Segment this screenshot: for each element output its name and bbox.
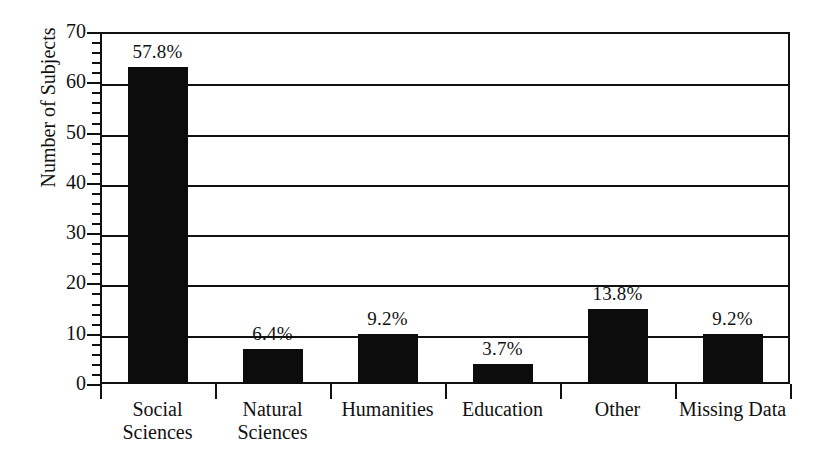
y-tick-minor (92, 92, 100, 94)
y-tick-minor (92, 324, 100, 326)
y-tick-minor (92, 243, 100, 245)
y-tick-major (87, 384, 101, 386)
bar-value-label: 57.8% (88, 41, 228, 63)
y-tick-minor (92, 354, 100, 356)
y-tick-major (87, 233, 101, 235)
y-tick-minor (92, 112, 100, 114)
x-axis-category-label: Missing Data (653, 398, 813, 421)
bar-value-label: 9.2% (663, 308, 803, 330)
y-tick-label: 30 (8, 222, 86, 242)
x-tick (215, 384, 217, 399)
x-axis-category-line: Sciences (193, 421, 353, 444)
x-tick (560, 384, 562, 399)
bar (128, 67, 188, 384)
y-tick-minor (92, 314, 100, 316)
y-tick-minor (92, 72, 100, 74)
y-tick-minor (92, 374, 100, 376)
x-axis-category-line: Missing Data (653, 398, 813, 421)
y-tick-major (87, 183, 101, 185)
bar-value-label: 13.8% (548, 283, 688, 305)
y-tick-minor (92, 102, 100, 104)
y-tick-major (87, 283, 101, 285)
y-tick-minor (92, 364, 100, 366)
y-tick-minor (92, 173, 100, 175)
y-tick-minor (92, 153, 100, 155)
y-tick-label: 10 (8, 323, 86, 343)
y-tick-label: 60 (8, 71, 86, 91)
y-tick-minor (92, 203, 100, 205)
bar (358, 334, 418, 384)
x-tick (330, 384, 332, 399)
y-tick-label: 40 (8, 172, 86, 192)
bar-value-label: 9.2% (318, 308, 458, 330)
y-tick-minor (92, 304, 100, 306)
y-tick-major (87, 133, 101, 135)
x-tick (100, 384, 102, 399)
y-tick-major (87, 82, 101, 84)
y-tick-minor (92, 193, 100, 195)
y-tick-label: 0 (8, 373, 86, 393)
y-tick-minor (92, 123, 100, 125)
x-tick (675, 384, 677, 399)
bar-value-label: 3.7% (433, 338, 573, 360)
y-tick-major (87, 32, 101, 34)
y-tick-minor (92, 213, 100, 215)
y-tick-minor (92, 273, 100, 275)
chart-figure: Number of Subjects 010203040506070 57.8%… (0, 0, 828, 461)
y-tick-label: 50 (8, 122, 86, 142)
x-tick (790, 384, 792, 399)
bar (703, 334, 763, 384)
bar (243, 349, 303, 384)
bar (473, 364, 533, 384)
x-tick (445, 384, 447, 399)
y-tick-label: 70 (8, 21, 86, 41)
y-tick-minor (92, 163, 100, 165)
y-tick-minor (92, 143, 100, 145)
y-tick-minor (92, 344, 100, 346)
y-tick-minor (92, 263, 100, 265)
y-tick-label: 20 (8, 272, 86, 292)
y-tick-minor (92, 293, 100, 295)
y-tick-minor (92, 253, 100, 255)
y-tick-minor (92, 223, 100, 225)
y-tick-major (87, 334, 101, 336)
bar (588, 309, 648, 384)
